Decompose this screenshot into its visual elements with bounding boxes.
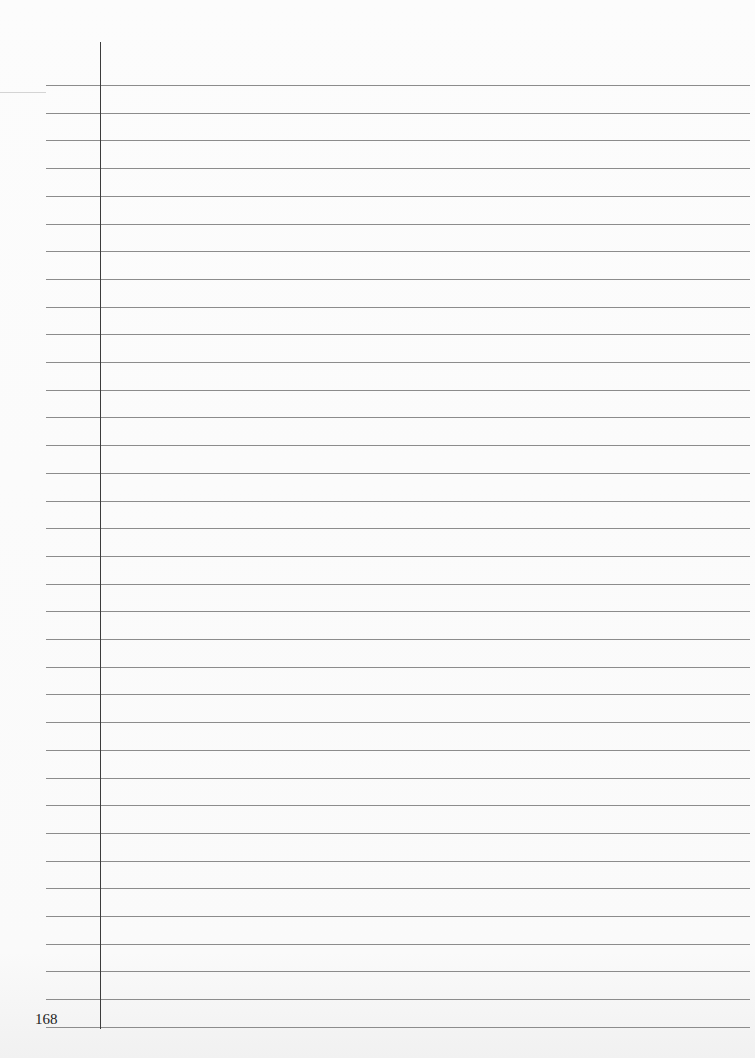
ruled-line	[46, 833, 750, 834]
ruled-line	[46, 307, 750, 308]
ruled-line	[46, 445, 750, 446]
ruled-line	[46, 888, 750, 889]
ruled-line	[46, 528, 750, 529]
ruled-line	[46, 417, 750, 418]
ruled-line	[46, 999, 750, 1000]
ruled-line	[46, 279, 750, 280]
ruled-line	[46, 334, 750, 335]
margin-line	[100, 42, 101, 1029]
ruled-line	[46, 861, 750, 862]
ruled-line	[46, 251, 750, 252]
ruled-line	[46, 722, 750, 723]
ruled-line	[46, 916, 750, 917]
ruled-line	[46, 390, 750, 391]
ruled-line	[46, 971, 750, 972]
ruled-line	[46, 667, 750, 668]
ruled-line	[46, 224, 750, 225]
ruled-line	[46, 113, 750, 114]
ruled-line	[46, 944, 750, 945]
ruled-line	[46, 140, 750, 141]
ruled-line	[46, 584, 750, 585]
ruled-line	[46, 611, 750, 612]
ruled-line	[46, 501, 750, 502]
ruled-line	[46, 196, 750, 197]
ruled-line	[46, 85, 750, 86]
ruled-line	[46, 362, 750, 363]
ruled-line	[46, 1027, 750, 1028]
ruled-lines	[0, 0, 755, 1058]
ruled-line	[46, 556, 750, 557]
ruled-line	[46, 639, 750, 640]
ruled-line	[46, 694, 750, 695]
ruled-line	[46, 750, 750, 751]
ruled-line	[46, 473, 750, 474]
ruled-line	[46, 168, 750, 169]
notebook-page: 168	[0, 0, 755, 1058]
ruled-line	[46, 778, 750, 779]
page-number: 168	[35, 1010, 58, 1028]
ruled-line	[46, 805, 750, 806]
